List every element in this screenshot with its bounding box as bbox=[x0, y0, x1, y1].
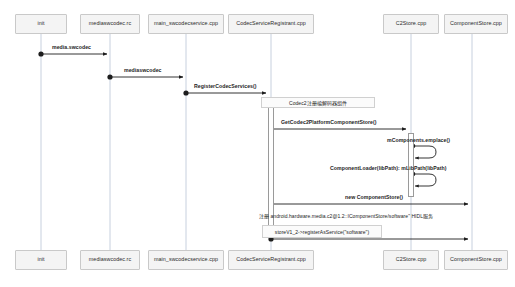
lifeline-header-main-swcodecservice[interactable]: main_swcodecservice.cpp bbox=[148, 14, 224, 34]
lifeline-footer-main-swcodecservice[interactable]: main_swcodecservice.cpp bbox=[148, 250, 224, 270]
lifeline-header-c2store[interactable]: C2Store.cpp bbox=[383, 14, 439, 34]
message-label-componentloader: ComponentLoader(libPath): mLibPath(libPa… bbox=[330, 165, 447, 171]
message-label-media-swcodec: media.swcodec bbox=[52, 44, 91, 50]
lifeline-footer-init[interactable]: init bbox=[15, 250, 67, 270]
sequence-diagram-canvas: init mediaswcodec.rc main_swcodecservice… bbox=[0, 0, 515, 287]
lifeline-header-componentstore[interactable]: ComponentStore.cpp bbox=[444, 14, 508, 34]
lifeline-footer-c2store[interactable]: C2Store.cpp bbox=[383, 250, 439, 270]
message-label-getcodec2platformcomponentstore: GetCodec2PlatformComponentStore() bbox=[281, 119, 377, 125]
origin-dot-m2 bbox=[107, 74, 112, 79]
note-codec2-register-components: Codec2注册编解码器组件 bbox=[261, 97, 375, 108]
message-label-mcomponents-emplace: mComponents.emplace() bbox=[387, 137, 450, 143]
arrow-m5-self bbox=[413, 146, 436, 158]
lifeline-header-codecserviceregistrant[interactable]: CodecServiceRegistrant.cpp bbox=[228, 14, 314, 34]
message-label-new-componentstore: new ComponentStore() bbox=[345, 194, 403, 200]
lifeline-header-mediaswcodec-rc[interactable]: mediaswcodec.rc bbox=[80, 14, 140, 34]
arrow-m6-self bbox=[413, 174, 436, 186]
origin-dot-m1 bbox=[38, 51, 43, 56]
message-label-registercodecservices: RegisterCodecServices() bbox=[194, 83, 257, 89]
message-label-mediaswcodec: mediaswcodec bbox=[124, 67, 162, 73]
lifeline-footer-codecserviceregistrant[interactable]: CodecServiceRegistrant.cpp bbox=[228, 250, 314, 270]
lifeline-footer-componentstore[interactable]: ComponentStore.cpp bbox=[444, 250, 508, 270]
origin-dot-m3 bbox=[183, 90, 188, 95]
note-hidl-service-registration: 注册 android.hardware.media.c2@1.2::ICompo… bbox=[259, 212, 433, 219]
lifeline-header-init[interactable]: init bbox=[15, 14, 67, 34]
lifeline-footer-mediaswcodec-rc[interactable]: mediaswcodec.rc bbox=[80, 250, 140, 270]
note-registerasservice-software: storeV1_2->registerAsService("software") bbox=[262, 225, 382, 238]
